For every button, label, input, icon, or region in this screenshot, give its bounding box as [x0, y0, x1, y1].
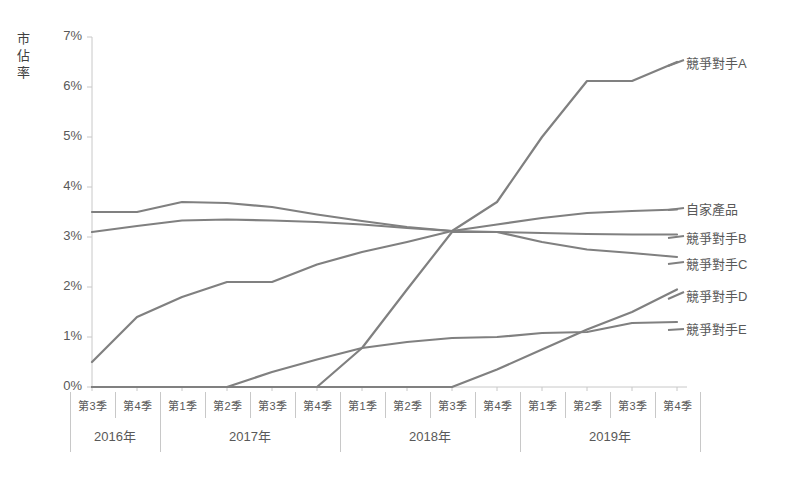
x-axis-quarter-label: 第1季 — [340, 392, 385, 418]
x-axis-year-row-end — [700, 418, 701, 452]
x-axis-quarter-label: 第1季 — [520, 392, 565, 418]
legend-item-競爭對手C[interactable]: 競爭對手C — [686, 254, 747, 273]
x-axis-quarter-label: 第4季 — [655, 392, 700, 418]
legend-connector — [668, 262, 684, 264]
series-line-競爭對手C — [92, 232, 677, 387]
x-axis-quarter-label: 第4季 — [475, 392, 520, 418]
legend-connector — [668, 208, 684, 210]
x-axis-quarter-label: 第2季 — [385, 392, 430, 418]
x-axis-quarter-label: 第3季 — [70, 392, 115, 418]
series-line-競爭對手B — [92, 220, 677, 235]
series-line-競爭對手E — [92, 322, 677, 387]
x-axis-quarter-label: 第2季 — [205, 392, 250, 418]
legend-connector — [668, 60, 684, 66]
x-axis-year-label: 2018年 — [340, 418, 520, 452]
legend-item-競爭對手A[interactable]: 競爭對手A — [686, 53, 747, 72]
market-share-line-chart: 市 佔 率 0%1%2%3%4%5%6%7% 第3季第4季第1季第2季第3季第4… — [0, 0, 786, 486]
legend-connector — [668, 329, 684, 330]
legend-item-自家產品[interactable]: 自家產品 — [686, 199, 738, 218]
x-axis-quarter-label: 第3季 — [250, 392, 295, 418]
x-axis-quarter-row-end — [700, 392, 701, 418]
x-axis-year-label: 2016年 — [70, 418, 160, 452]
legend-connector — [668, 236, 684, 238]
x-axis-year-label: 2017年 — [160, 418, 340, 452]
legend-item-競爭對手E[interactable]: 競爭對手E — [686, 319, 747, 338]
series-line-競爭對手D — [92, 290, 677, 388]
x-axis-year-label: 2019年 — [520, 418, 700, 452]
legend-item-競爭對手B[interactable]: 競爭對手B — [686, 228, 747, 247]
x-axis-quarter-label: 第4季 — [115, 392, 160, 418]
x-axis-quarter-label: 第4季 — [295, 392, 340, 418]
x-axis-quarter-label: 第3季 — [610, 392, 655, 418]
x-axis-quarter-label: 第3季 — [430, 392, 475, 418]
x-axis-quarter-label: 第1季 — [160, 392, 205, 418]
legend-item-競爭對手D[interactable]: 競爭對手D — [686, 286, 747, 305]
x-axis-quarter-label: 第2季 — [565, 392, 610, 418]
